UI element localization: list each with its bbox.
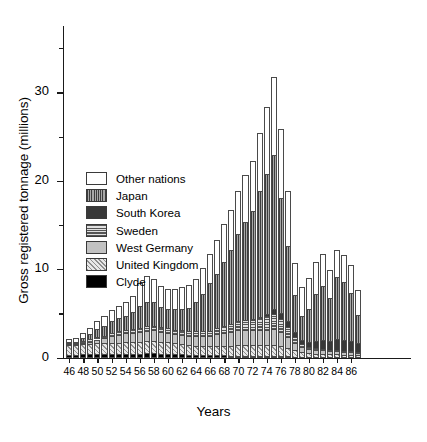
bar-segment (109, 336, 115, 343)
legend-label: South Korea (116, 206, 180, 219)
bar-segment (235, 345, 241, 356)
bar-segment (207, 331, 213, 336)
x-tick (126, 359, 127, 363)
bar-segment (257, 317, 263, 318)
bar-segment (151, 326, 157, 330)
x-tick (154, 359, 155, 363)
bar-segment (172, 343, 178, 354)
bar-47 (73, 338, 79, 358)
bar-segment (320, 349, 326, 350)
bar-segment (123, 333, 129, 342)
bar-76 (278, 129, 284, 357)
bar-segment (186, 308, 192, 331)
x-tick-label: 64 (190, 365, 202, 377)
x-tick (238, 359, 239, 363)
bar-segment (137, 306, 143, 328)
x-tick (69, 359, 70, 363)
bar-segment (334, 351, 340, 355)
bar-75 (271, 77, 277, 357)
bar-69 (228, 210, 234, 358)
bar-segment (200, 336, 206, 345)
bar-80 (306, 278, 312, 358)
x-tick-label: 74 (261, 365, 273, 377)
bar-segment (137, 328, 143, 332)
bar-segment (158, 354, 164, 358)
bar-segment (207, 355, 213, 357)
bar-segment (228, 346, 234, 355)
x-tick (337, 359, 338, 363)
bar-segment (165, 309, 171, 328)
bar-segment (73, 338, 79, 342)
bar-segment (172, 354, 178, 358)
bar-segment (327, 341, 333, 350)
x-tick (323, 359, 324, 363)
bar-segment (299, 287, 305, 315)
bar-segment (179, 344, 185, 354)
bar-segment (66, 342, 72, 343)
bar-segment (285, 337, 291, 348)
bar-segment (285, 246, 291, 321)
bar-segment (341, 352, 347, 355)
bar-segment (306, 342, 312, 347)
bar-segment (292, 295, 298, 332)
bar-segment (165, 354, 171, 358)
bar-48 (80, 333, 86, 358)
legend-item: West Germany (86, 239, 226, 256)
bar-segment (327, 350, 333, 351)
bar-segment (158, 332, 164, 342)
bar-segment (292, 263, 298, 295)
x-tick (210, 359, 211, 363)
bar-segment (327, 270, 333, 298)
bar-segment (172, 330, 178, 334)
bar-segment (341, 340, 347, 351)
bar-segment (66, 344, 72, 345)
bar-segment (334, 354, 340, 357)
bar-segment (327, 351, 333, 355)
legend-label: Other nations (116, 172, 186, 185)
bar-segment (257, 345, 263, 356)
bar-segment (257, 318, 263, 330)
bar-segment (186, 331, 192, 336)
x-tick-label: 84 (331, 365, 343, 377)
bar-segment (179, 330, 185, 334)
bar-segment (228, 250, 234, 323)
bar-74 (264, 107, 270, 358)
legend-item: Other nations (86, 170, 226, 187)
bar-segment (348, 265, 354, 292)
legend-label: West Germany (116, 241, 193, 254)
legend-swatch (86, 241, 107, 254)
bar-segment (221, 326, 227, 333)
bar-segment (116, 335, 122, 343)
bar-segment (292, 332, 298, 337)
bar-segment (242, 222, 248, 320)
bar-segment (278, 313, 284, 318)
x-tick (281, 359, 282, 363)
x-tick-label: 56 (134, 365, 146, 377)
bar-segment (172, 309, 178, 330)
y-tick-major: 20 (57, 181, 63, 182)
bar-54 (123, 302, 129, 358)
bar-segment (257, 330, 263, 345)
bar-segment (292, 343, 298, 350)
bar-segment (264, 174, 270, 314)
bar-83 (327, 270, 333, 357)
bar-segment (228, 332, 234, 346)
y-tick-minor (59, 137, 63, 138)
bar-segment (66, 339, 72, 342)
bar-segment (101, 338, 107, 343)
bar-segment (87, 344, 93, 354)
bar-segment (250, 356, 256, 358)
bar-segment (144, 326, 150, 330)
x-tick-label: 82 (317, 365, 329, 377)
bar-62 (179, 287, 185, 358)
chart-legend: Other nationsJapanSouth KoreaSwedenWest … (86, 170, 226, 290)
bar-segment (299, 344, 305, 347)
bar-segment (271, 77, 277, 155)
bar-segment (257, 133, 263, 192)
bar-segment (235, 356, 241, 358)
x-tick (224, 359, 225, 363)
bar-segment (130, 296, 136, 312)
bar-segment (101, 326, 107, 336)
x-tick (97, 359, 98, 363)
legend-label: Clyde (116, 275, 146, 288)
